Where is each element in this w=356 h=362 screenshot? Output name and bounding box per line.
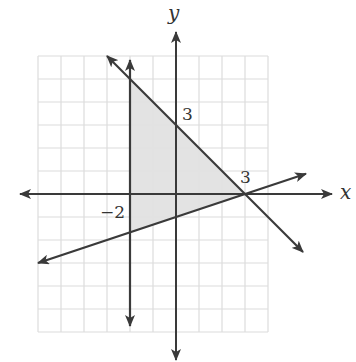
x-axis-label: x	[340, 180, 351, 204]
coordinate-graph: y x 3 3 −2	[0, 0, 356, 362]
y-axis-label: y	[167, 1, 180, 25]
axes	[20, 32, 332, 360]
x-tick-label-3: 3	[240, 167, 251, 187]
x-tick-label-neg2: −2	[100, 202, 125, 222]
y-tick-label-3: 3	[182, 104, 193, 124]
